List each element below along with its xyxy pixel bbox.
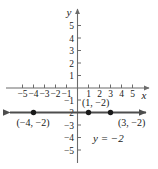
y-axis-label: y: [66, 6, 72, 18]
point-marker-neg4-neg2: [31, 110, 36, 115]
point-label-1-neg2: (1, −2): [82, 97, 109, 109]
y-tick-label: 2: [69, 59, 74, 69]
axes-group: [6, 9, 149, 163]
y-tick-label: −1: [64, 96, 74, 106]
x-tick-label: 4: [119, 89, 124, 99]
graph-svg: −5 −4 −3 −2 −1 1 2 3 4 5 5 4 3 2 1 −1 −2…: [0, 0, 158, 169]
y-tick-label: 4: [69, 34, 74, 44]
x-tick-label: −4: [28, 89, 38, 99]
x-tick-label: −3: [39, 89, 49, 99]
x-tick-label: −2: [50, 89, 60, 99]
equation-label: y = −2: [92, 132, 124, 144]
y-tick-label: −5: [64, 146, 74, 156]
point-label-neg4-neg2: (−4, −2): [17, 117, 50, 129]
y-tick-label: 5: [69, 21, 74, 31]
y-tick-label: −4: [64, 133, 74, 143]
x-tick-label: −5: [17, 89, 27, 99]
y-tick-label: −3: [64, 121, 74, 131]
y-tick-label: 3: [69, 46, 74, 56]
point-marker-1-neg2: [86, 110, 91, 115]
x-tick-label: 5: [130, 89, 135, 99]
x-axis-label: x: [141, 89, 147, 101]
point-label-3-neg2: (3, −2): [118, 117, 145, 129]
y-tick-label: 1: [69, 71, 74, 81]
point-marker-3-neg2: [108, 110, 113, 115]
x-tick-labels: −5 −4 −3 −2 −1 1 2 3 4 5: [17, 89, 135, 99]
coordinate-plane-figure: −5 −4 −3 −2 −1 1 2 3 4 5 5 4 3 2 1 −1 −2…: [0, 0, 158, 169]
